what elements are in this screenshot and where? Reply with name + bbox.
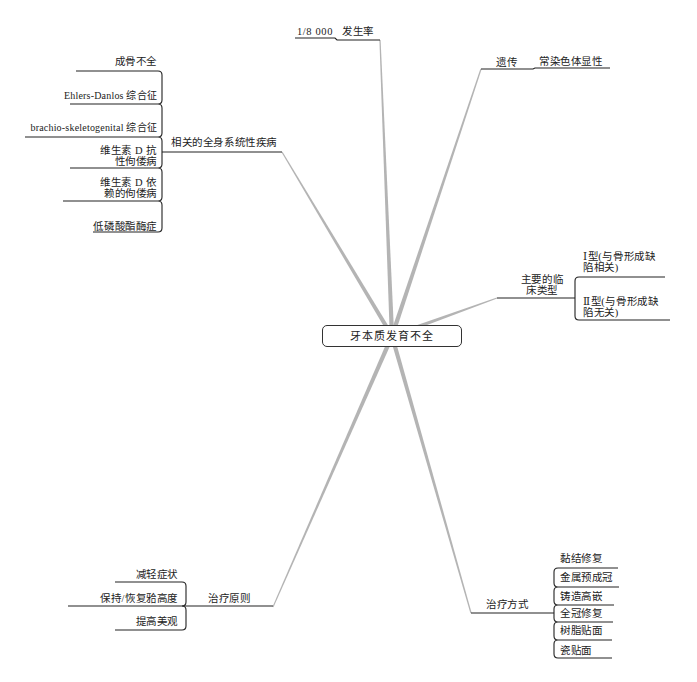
principle-item: 提高美观 [136, 616, 178, 627]
clinical-types-label-line: 主要的临 [512, 274, 572, 285]
clinical-type-1-line: 陷相关) [583, 262, 655, 273]
mind-map-canvas: 牙本质发育不全 1/8 000 发生率 遗传 常染色体显性 主要的临 床类型 Ⅰ… [0, 0, 697, 682]
disease-item-line: 性佝偻病 [100, 156, 157, 167]
related-diseases-label: 相关的全身系统性疾病 [171, 137, 277, 148]
disease-item: brachio-skeletogenital 综合征 [30, 122, 157, 133]
disease-item-line: 维生素 D 抗 [100, 145, 157, 156]
disease-item-line: 低磷酸酯酶症 [93, 221, 157, 232]
disease-item: 维生素 D 抗 性佝偻病 [100, 145, 157, 167]
method-item: 黏结修复 [560, 553, 602, 564]
incidence-label: 发生率 [342, 26, 374, 37]
clinical-type-2-line: 陷无关) [583, 307, 658, 318]
method-item: 树脂贴面 [560, 625, 602, 636]
treatment-principles-label: 治疗原则 [208, 593, 250, 604]
principle-item: 保持/恢复𬌗高度 [100, 593, 178, 604]
method-item: 全冠修复 [560, 608, 602, 619]
branch-line-heredity [390, 69, 482, 337]
branch-line-related-diseases [282, 152, 394, 337]
disease-item-line: Ehlers-Danlos 综合征 [64, 90, 157, 101]
brace-clinical-types [575, 277, 579, 320]
heredity-value: 常染色体显性 [539, 56, 603, 67]
disease-item-line: brachio-skeletogenital 综合征 [30, 122, 157, 133]
clinical-type-2: Ⅱ型(与骨形成缺 陷无关) [583, 296, 658, 318]
clinical-type-1-line: Ⅰ型(与骨形成缺 [583, 251, 655, 262]
brace-treatment-methods [554, 568, 558, 658]
heredity-label: 遗传 [496, 57, 517, 68]
disease-item-line: 成骨不全 [115, 56, 157, 67]
branch-line-incidence [379, 40, 394, 336]
disease-item: 成骨不全 [115, 56, 157, 67]
method-item: 瓷贴面 [560, 645, 592, 656]
branch-line-treatment-methods [390, 335, 472, 613]
branch-line-treatment-principles [273, 335, 395, 607]
underline-incidence [295, 38, 380, 40]
disease-item: Ehlers-Danlos 综合征 [64, 90, 157, 101]
method-item: 铸造高嵌 [560, 591, 602, 602]
clinical-type-1: Ⅰ型(与骨形成缺 陷相关) [583, 251, 655, 273]
treatment-methods-label: 治疗方式 [486, 599, 528, 610]
disease-item-line: 维生素 D 依 [100, 177, 157, 188]
clinical-types-label-line: 床类型 [512, 285, 572, 296]
clinical-type-2-line: Ⅱ型(与骨形成缺 [583, 296, 658, 307]
method-item: 金属预成冠 [560, 572, 613, 583]
disease-item-line: 赖的佝偻病 [100, 188, 157, 199]
central-topic-node: 牙本质发育不全 [322, 325, 462, 347]
disease-item: 低磷酸酯酶症 [93, 221, 157, 232]
clinical-types-label: 主要的临 床类型 [512, 274, 572, 296]
underline-heredity [481, 68, 610, 69]
brace-related-diseases [158, 71, 162, 232]
principle-item: 减轻症状 [136, 569, 178, 580]
disease-item: 维生素 D 依 赖的佝偻病 [100, 177, 157, 199]
incidence-value: 1/8 000 [297, 26, 333, 37]
